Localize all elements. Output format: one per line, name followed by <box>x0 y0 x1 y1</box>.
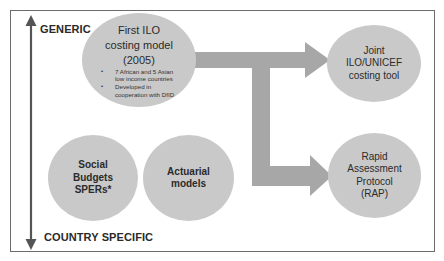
bullet-item: 7 African and 5 Asian low income countri… <box>99 68 179 83</box>
node-joint-ilo-unicef-tool: Joint ILO/UNICEF costing tool <box>327 25 421 102</box>
node-bullet-list: 7 African and 5 Asian low income countri… <box>99 68 179 98</box>
node-title: (RAP) <box>361 188 388 201</box>
node-title: Joint <box>363 45 384 58</box>
node-title: First ILO <box>118 24 160 37</box>
node-title: Rapid <box>361 151 387 164</box>
node-title: Social <box>78 159 107 172</box>
node-title: Assessment <box>347 163 401 176</box>
node-title: (2005) <box>123 54 155 67</box>
node-title: costing model <box>105 39 173 52</box>
node-social-budgets: Social Budgets SPERs* <box>48 135 138 221</box>
node-title: Actuarial <box>167 166 210 179</box>
node-title: SPERs* <box>75 184 112 197</box>
node-actuarial-models: Actuarial models <box>143 135 234 221</box>
axis-label-country-specific: COUNTRY SPECIFIC <box>44 231 153 243</box>
bullet-item: Developed in cooperation with DfID <box>99 83 179 98</box>
node-title: Budgets <box>73 172 113 185</box>
node-title: models <box>171 178 206 191</box>
node-title: ILO/UNICEF <box>346 57 402 70</box>
node-rapid-assessment-protocol: Rapid Assessment Protocol (RAP) <box>328 133 421 218</box>
node-title: Protocol <box>356 176 393 189</box>
node-title: costing tool <box>349 70 400 83</box>
node-first-ilo-costing-model: First ILO costing model (2005) 7 African… <box>82 13 196 107</box>
axis-label-generic: GENERIC <box>40 23 91 35</box>
